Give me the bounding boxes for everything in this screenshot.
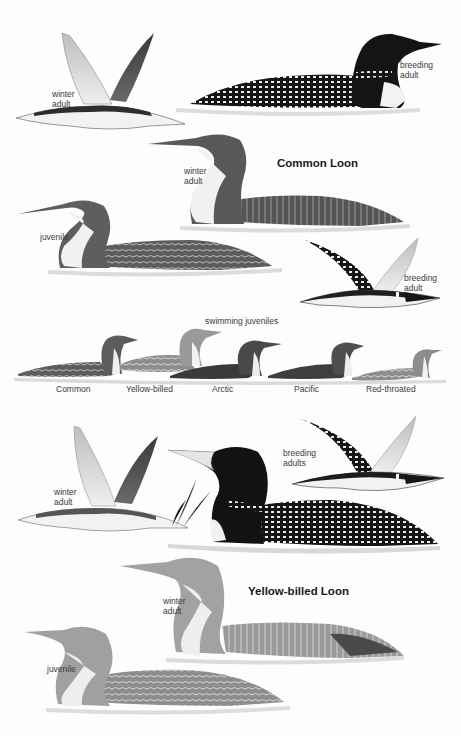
label-common-juvenile: juvenile (40, 233, 69, 243)
caption-common: Common (56, 384, 90, 394)
label-yellow-billed-juvenile: juvenile (47, 665, 76, 675)
label-common-flying-winter-adult: winter adult (52, 90, 75, 109)
label-common-winter-adult: winter adult (184, 167, 207, 186)
label-common-flying-breeding-adult: breeding adult (404, 274, 437, 293)
field-guide-plate: winter adult breeding adult Common Loon … (0, 0, 461, 736)
common-loon-flying-winter-adult (16, 33, 185, 129)
yellow-billed-loon-flying-winter-adult (18, 426, 188, 531)
loon-illustrations (0, 0, 461, 736)
species-title-common-loon: Common Loon (277, 157, 358, 169)
label-common-breeding-adult: breeding adult (400, 61, 433, 80)
reeds (172, 480, 210, 526)
label-yellow-billed-breeding-adults: breeding adults (283, 449, 316, 468)
label-yellow-billed-flying-winter-adult: winter adult (54, 488, 77, 507)
swimming-juveniles-row (14, 329, 446, 385)
caption-red-throated: Red-throated (366, 384, 416, 394)
caption-pacific: Pacific (294, 384, 319, 394)
label-yellow-billed-winter-adult: winter adult (163, 597, 186, 616)
caption-yellow-billed: Yellow-billed (126, 384, 173, 394)
species-title-yellow-billed-loon: Yellow-billed Loon (248, 585, 349, 597)
caption-arctic: Arctic (212, 384, 233, 394)
swimming-juveniles-heading: swimming juveniles (205, 316, 278, 326)
